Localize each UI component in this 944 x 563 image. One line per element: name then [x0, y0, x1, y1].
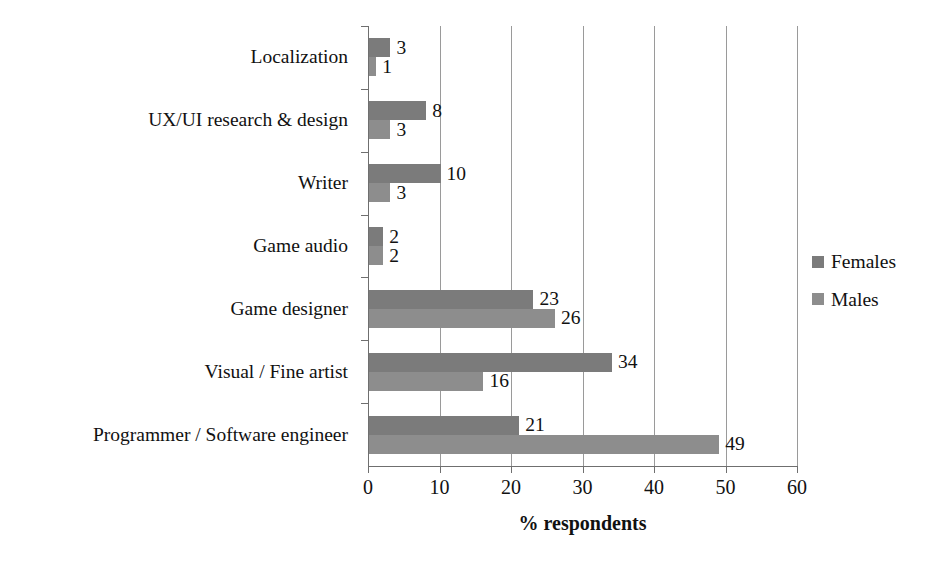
bar-males — [369, 57, 376, 76]
bar-males — [369, 372, 483, 391]
category-tick — [361, 26, 368, 27]
x-axis-tick-label: 60 — [767, 477, 827, 497]
category-axis-labels: LocalizationUX/UI research & designWrite… — [0, 26, 358, 466]
bar-females — [369, 38, 390, 57]
bar-value-label: 3 — [396, 183, 406, 203]
bar-value-label: 26 — [561, 309, 581, 329]
x-axis-tick — [440, 466, 441, 473]
legend-item[interactable]: Males — [812, 290, 896, 310]
bar-value-label: 23 — [539, 290, 559, 310]
bar-females — [369, 101, 426, 120]
gridline — [511, 26, 512, 466]
bar-value-label: 34 — [618, 352, 638, 372]
category-label: Programmer / Software engineer — [93, 425, 348, 445]
x-axis-tick — [726, 466, 727, 473]
bar-males — [369, 246, 383, 265]
chart-legend: FemalesMales — [812, 252, 896, 327]
bar-value-label: 2 — [389, 227, 399, 247]
category-tick — [361, 340, 368, 341]
category-label: Game audio — [253, 236, 348, 256]
bar-value-label: 10 — [447, 164, 467, 184]
legend-swatch-icon — [812, 256, 824, 268]
bar-value-label: 3 — [396, 120, 406, 140]
bar-females — [369, 353, 612, 372]
x-axis-tick-label: 50 — [696, 477, 756, 497]
legend-swatch-icon — [812, 293, 824, 305]
x-axis-tick — [654, 466, 655, 473]
bar-males — [369, 435, 719, 454]
gridline — [440, 26, 441, 466]
gridline — [654, 26, 655, 466]
legend-item[interactable]: Females — [812, 252, 896, 272]
legend-label: Males — [831, 290, 879, 310]
category-label: Localization — [251, 48, 348, 68]
category-tick — [361, 215, 368, 216]
x-axis-tick — [511, 466, 512, 473]
bar-females — [369, 227, 383, 246]
bar-females — [369, 416, 519, 435]
category-label: Game designer — [231, 299, 349, 319]
x-axis-tick — [797, 466, 798, 473]
gridline — [583, 26, 584, 466]
x-axis-tick-label: 0 — [338, 477, 398, 497]
x-axis-tick-label: 10 — [410, 477, 470, 497]
x-axis-tick-label: 20 — [481, 477, 541, 497]
category-label: Visual / Fine artist — [205, 362, 348, 382]
bar-value-label: 2 — [389, 246, 399, 266]
bar-value-label: 8 — [432, 101, 442, 121]
category-label: Writer — [298, 173, 348, 193]
gridline — [726, 26, 727, 466]
category-tick — [361, 403, 368, 404]
bar-value-label: 3 — [396, 38, 406, 58]
category-label: UX/UI research & design — [148, 111, 348, 131]
bar-value-label: 21 — [525, 415, 545, 435]
legend-label: Females — [831, 252, 896, 272]
plot-area: 318310322232634162149 — [368, 26, 797, 466]
bar-females — [369, 164, 441, 183]
x-axis-tick — [583, 466, 584, 473]
category-tick — [361, 277, 368, 278]
x-axis-tick-label: 30 — [553, 477, 613, 497]
x-axis-tick-label: 40 — [624, 477, 684, 497]
bar-chart: LocalizationUX/UI research & designWrite… — [0, 0, 944, 563]
bar-females — [369, 290, 533, 309]
bar-value-label: 16 — [489, 371, 509, 391]
bar-males — [369, 183, 390, 202]
bar-value-label: 49 — [725, 434, 745, 454]
category-tick — [361, 89, 368, 90]
x-axis-title: % respondents — [368, 512, 797, 535]
bar-males — [369, 309, 555, 328]
x-axis-tick — [368, 466, 369, 473]
gridline — [797, 26, 798, 466]
bar-males — [369, 120, 390, 139]
bar-value-label: 1 — [382, 57, 392, 77]
category-tick — [361, 152, 368, 153]
